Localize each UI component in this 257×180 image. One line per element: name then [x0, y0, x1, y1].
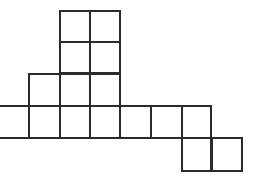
grid-cell	[28, 73, 61, 107]
grid-cell	[59, 10, 91, 43]
grid-cell	[119, 105, 152, 139]
grid-cell	[59, 73, 91, 107]
grid-cell	[211, 137, 243, 172]
grid-cell	[28, 105, 61, 139]
grid-cell	[59, 105, 91, 139]
grid-cell	[181, 105, 212, 139]
grid-cell	[89, 41, 121, 74]
grid-cell	[89, 73, 121, 107]
polyomino-grid-diagram	[0, 0, 257, 180]
grid-cell	[89, 10, 121, 43]
grid-cell	[181, 137, 212, 172]
grid-cell	[0, 105, 30, 139]
grid-cell	[89, 105, 121, 139]
grid-cell	[150, 105, 183, 139]
grid-cell	[59, 41, 91, 74]
